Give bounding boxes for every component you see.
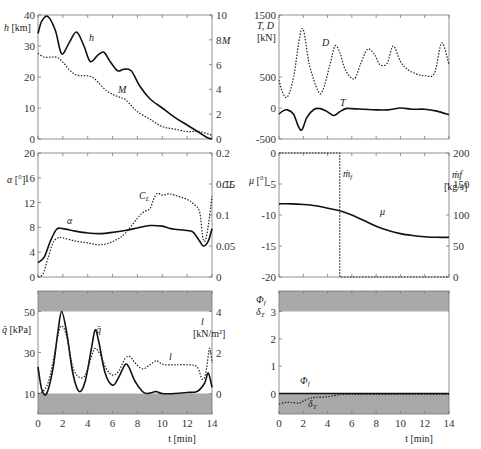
left-tick-label: 16: [24, 172, 36, 184]
left-tick-label: 500: [260, 71, 277, 83]
series-D: [279, 29, 449, 98]
right-tick-label: 200: [453, 147, 470, 159]
series-h: [38, 16, 212, 139]
right-axis-label: ṁf[kg/s]: [444, 169, 467, 192]
left-tick-label: 0: [30, 133, 36, 145]
left-tick-label: 4: [30, 246, 36, 258]
series-annotation: T: [340, 97, 347, 108]
series-μ: [279, 204, 449, 238]
constraint-band: [279, 394, 449, 415]
left-axis-label: T, D[kN]: [257, 20, 276, 43]
x-tick-label: 10: [395, 417, 407, 429]
left-tick-label: 20: [24, 71, 36, 83]
x-tick-label: 0: [276, 417, 282, 429]
figure-canvas: 0102030400246810h [km]MhM-50005001500T, …: [0, 0, 481, 449]
right-tick-label: 0.05: [216, 240, 236, 252]
right-axis-label: M: [221, 35, 231, 46]
series-annotation: ṁf: [343, 168, 353, 181]
right-axis-label: l[kN/m²]: [193, 316, 225, 339]
left-tick-label: -5: [267, 178, 277, 190]
right-tick-label: 4: [216, 306, 222, 318]
constraint-band: [38, 291, 212, 312]
left-tick-label: 0: [271, 102, 277, 114]
left-tick-label: 50: [24, 306, 36, 318]
x-tick-label: 6: [110, 417, 116, 429]
series-annotation: μ: [379, 206, 385, 217]
right-tick-label: 0: [453, 271, 459, 283]
axes-frame: [38, 153, 212, 277]
series-q̄: [38, 312, 212, 395]
x-tick-label: 8: [373, 417, 379, 429]
left-tick-label: 1: [271, 360, 277, 372]
left-tick-label: 20: [24, 147, 36, 159]
left-tick-label: 12: [24, 197, 35, 209]
constraint-band: [38, 394, 212, 415]
left-axis-label: α [°]: [7, 174, 25, 185]
panel-altitude-mach: 0102030400246810h [km]MhM: [4, 9, 231, 145]
x-tick-label: 4: [85, 417, 91, 429]
right-tick-label: 2: [216, 347, 222, 359]
x-tick-label: 6: [349, 417, 355, 429]
right-tick-label: 0: [216, 133, 222, 145]
left-tick-label: 40: [24, 9, 36, 21]
x-tick-label: 2: [301, 417, 307, 429]
x-tick-label: 14: [207, 417, 219, 429]
x-tick-label: 12: [419, 417, 430, 429]
right-tick-label: 0: [216, 271, 222, 283]
series-annotation: M: [117, 84, 127, 95]
panel-throttle-thrust-vector: 012302468101214t [min]ΦfδTΦfδT: [256, 291, 455, 444]
right-tick-label: 50: [453, 240, 465, 252]
left-tick-label: 30: [24, 347, 36, 359]
left-tick-label: -10: [261, 209, 276, 221]
series-annotation: D: [321, 37, 330, 48]
right-tick-label: 2: [216, 108, 222, 120]
x-tick-label: 0: [35, 417, 41, 429]
left-tick-label: -15: [261, 240, 276, 252]
constraint-band: [279, 291, 449, 312]
series-annotation: h: [89, 32, 94, 43]
left-tick-label: -500: [256, 133, 277, 145]
left-axis-label: μ [°]: [248, 175, 267, 186]
x-tick-label: 12: [182, 417, 193, 429]
left-tick-label: 30: [24, 40, 36, 52]
left-tick-label: 3: [271, 306, 277, 318]
x-tick-label: 10: [157, 417, 169, 429]
right-tick-label: 100: [453, 209, 470, 221]
left-tick-label: 0: [271, 147, 277, 159]
series-C_L: [38, 193, 212, 277]
x-axis-label: t [min]: [168, 433, 196, 444]
right-tick-label: 0.1: [216, 209, 230, 221]
right-tick-label: 4: [216, 83, 222, 95]
series-T: [279, 108, 449, 130]
panel-dynamic-pressure-wing-loading: 10305002402468101214t [min]q̄ [kPa]l[kN/…: [2, 291, 225, 444]
left-axis-label: h [km]: [4, 22, 31, 33]
left-axis-label: q̄ [kPa]: [2, 324, 31, 335]
left-tick-label: 8: [30, 221, 36, 233]
series-annotation: Φf: [300, 375, 311, 388]
right-tick-label: 6: [216, 59, 222, 71]
series-annotation: l: [169, 351, 172, 362]
panel-thrust-drag: -50005001500T, D[kN]DT: [254, 9, 449, 145]
x-axis-label: t [min]: [405, 433, 433, 444]
x-tick-label: 8: [135, 417, 141, 429]
x-tick-label: 4: [325, 417, 331, 429]
left-tick-label: 0: [271, 388, 277, 400]
panel-bank-angle-fuel-flow: -20-15-10-50050100150200μ [°]ṁf[kg/s]ṁfμ: [248, 147, 470, 283]
series-annotation: CL: [139, 190, 150, 203]
left-tick-label: 0: [30, 271, 36, 283]
right-tick-label: 10: [216, 9, 228, 21]
axes-frame: [279, 153, 449, 277]
left-tick-label: 2: [271, 333, 277, 345]
right-axis-label: CL: [222, 179, 235, 190]
series-α: [38, 225, 212, 262]
x-tick-label: 14: [444, 417, 456, 429]
series-ṁ_f: [279, 153, 449, 277]
series-l: [38, 326, 212, 394]
left-tick-label: -20: [261, 271, 276, 283]
axes-frame: [38, 15, 212, 139]
series-annotation: α: [67, 215, 73, 226]
x-tick-label: 2: [60, 417, 66, 429]
left-axis-label: ΦfδT: [256, 294, 267, 319]
right-tick-label: 0.2: [216, 147, 230, 159]
left-tick-label: 10: [24, 102, 36, 114]
